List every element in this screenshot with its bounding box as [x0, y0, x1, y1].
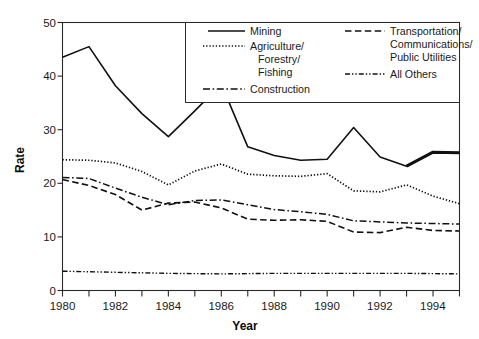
- legend-label-transportation-2: Communications/: [390, 38, 473, 50]
- x-tick-label-1988: 1988: [261, 300, 287, 312]
- x-tick-label-1984: 1984: [156, 300, 182, 312]
- x-axis-ticks: [63, 291, 460, 297]
- series-line-4: [63, 271, 460, 274]
- x-tick-label-1992: 1992: [367, 300, 393, 312]
- x-tick-label-1980: 1980: [50, 300, 76, 312]
- x-tick-label-1986: 1986: [208, 300, 234, 312]
- x-tick-label-1990: 1990: [314, 300, 340, 312]
- series-line-1: [63, 160, 460, 204]
- y-axis: 50 40 30 20 10 0: [43, 17, 62, 297]
- x-axis-title: Year: [232, 319, 258, 333]
- line-chart: 50 40 30 20 10 0 1980 1982 1984 1986 198…: [0, 0, 479, 339]
- x-axis: 1980 1982 1984 1986 1988 1990 1992 1994: [50, 291, 460, 313]
- legend-label-transportation-1: Transportation/: [390, 25, 462, 37]
- legend-label-agriculture-1: Agriculture/: [250, 40, 304, 52]
- x-tick-label-1982: 1982: [103, 300, 129, 312]
- series-line-0-emphasis: [407, 152, 460, 166]
- series-line-3: [63, 180, 460, 233]
- y-axis-ticks: [58, 23, 63, 291]
- chart-container: 50 40 30 20 10 0 1980 1982 1984 1986 198…: [0, 0, 479, 339]
- legend-label-transportation-3: Public Utilities: [390, 51, 457, 63]
- legend-label-mining: Mining: [250, 25, 282, 37]
- y-tick-label-0: 0: [50, 285, 56, 297]
- legend: Mining Agriculture/ Forestry/ Fishing Co…: [186, 23, 473, 103]
- legend-label-agriculture-3: Fishing: [258, 66, 293, 78]
- legend-label-allothers: All Others: [390, 68, 437, 80]
- series-line-2: [63, 177, 460, 224]
- y-tick-label-50: 50: [43, 17, 56, 29]
- x-tick-label-1994: 1994: [420, 300, 446, 312]
- legend-label-agriculture-2: Forestry/: [258, 53, 300, 65]
- y-tick-label-10: 10: [43, 231, 56, 243]
- y-tick-label-20: 20: [43, 177, 56, 189]
- y-axis-title: Rate: [13, 147, 27, 173]
- y-tick-label-30: 30: [43, 124, 56, 136]
- y-tick-label-40: 40: [43, 70, 56, 82]
- legend-label-construction: Construction: [250, 83, 310, 95]
